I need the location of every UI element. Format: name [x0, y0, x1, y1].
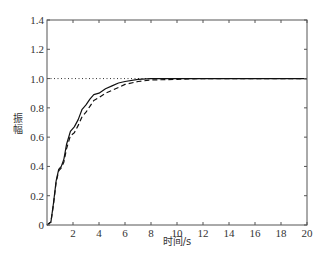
y-tick-label: 0.2 — [30, 190, 44, 202]
x-tick-label: 2 — [70, 227, 76, 239]
y-tick-label: 0.4 — [30, 160, 44, 172]
y-tick-label: 1.4 — [30, 14, 44, 26]
x-tick-label: 4 — [96, 227, 102, 239]
x-tick-label: 18 — [276, 227, 288, 239]
x-tick-label: 8 — [148, 227, 154, 239]
y-tick-label: 1.0 — [30, 73, 44, 85]
series-dashed — [47, 79, 307, 225]
series-layer — [47, 79, 307, 225]
x-axis-ticks: 2468101214161820 — [70, 20, 313, 239]
y-tick-label: 1.2 — [30, 43, 44, 55]
x-axis-label: 时间/s — [163, 235, 192, 247]
x-tick-label: 6 — [122, 227, 128, 239]
y-axis-label: 振幅 — [13, 112, 23, 135]
y-tick-label: 0 — [39, 219, 45, 231]
x-tick-label: 16 — [250, 227, 262, 239]
x-tick-label: 14 — [224, 227, 236, 239]
axes-frame — [47, 20, 307, 225]
y-axis-ticks: 00.20.40.60.81.01.21.4 — [30, 14, 307, 231]
y-tick-label: 0.8 — [30, 102, 44, 114]
x-tick-label: 12 — [198, 227, 209, 239]
x-tick-label: 20 — [302, 227, 314, 239]
y-tick-label: 0.6 — [30, 131, 44, 143]
series-solid — [47, 79, 307, 225]
step-response-chart: 2468101214161820 00.20.40.60.81.01.21.4 … — [0, 0, 328, 261]
